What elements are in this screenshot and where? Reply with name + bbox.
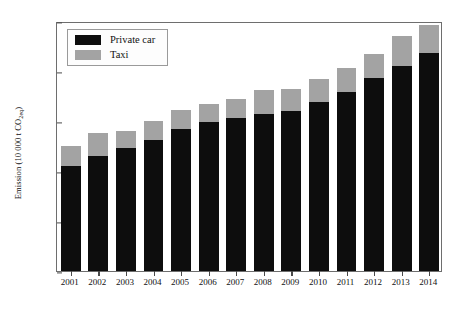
x-axis-tick-mark: [429, 271, 430, 276]
x-axis-tick-mark: [236, 271, 237, 276]
legend-item-taxi: Taxi: [75, 50, 155, 61]
bar-2007: [226, 99, 246, 271]
x-axis-tick-mark: [291, 271, 292, 276]
bar-segment-taxi: [88, 133, 108, 156]
bar-2011: [337, 68, 357, 271]
bar-2006: [199, 104, 219, 271]
bar-segment-taxi: [144, 121, 164, 140]
bar-segment-taxi: [254, 90, 274, 114]
bar-2012: [364, 54, 384, 271]
bar-segment-taxi: [364, 54, 384, 78]
x-axis-tick-mark: [347, 271, 348, 276]
y-axis-tick-mark: [57, 72, 62, 73]
x-axis-tick-mark: [402, 271, 403, 276]
bar-segment-private-car: [419, 53, 439, 271]
bar-2001: [61, 146, 81, 271]
y-axis-tick-mark: [57, 22, 62, 23]
bar-segment-taxi: [61, 146, 81, 166]
bar-segment-private-car: [309, 102, 329, 271]
x-axis-tick-mark: [154, 271, 155, 276]
y-axis-title-subscript: 2eq: [18, 110, 24, 119]
x-axis-tick-mark: [126, 271, 127, 276]
bar-2008: [254, 90, 274, 271]
x-axis-tick-mark: [374, 271, 375, 276]
bar-2010: [309, 79, 329, 271]
legend-item-private-car: Private car: [75, 35, 155, 46]
x-axis-tick-mark: [264, 271, 265, 276]
y-axis-title: Emission (10 000 t CO2eq): [13, 53, 23, 253]
x-axis-tick-mark: [98, 271, 99, 276]
bar-segment-private-car: [337, 92, 357, 271]
legend-label-taxi: Taxi: [110, 50, 129, 61]
x-axis-tick-mark: [181, 271, 182, 276]
bar-segment-private-car: [364, 78, 384, 271]
bar-2004: [144, 121, 164, 271]
bar-segment-private-car: [88, 156, 108, 271]
bar-2005: [171, 110, 191, 271]
bar-segment-private-car: [116, 148, 136, 271]
legend-swatch-private-car-icon: [75, 35, 101, 45]
x-axis-tick-mark: [71, 271, 72, 276]
bar-segment-private-car: [226, 118, 246, 271]
bar-segment-private-car: [281, 111, 301, 271]
bar-segment-private-car: [144, 140, 164, 271]
bar-segment-taxi: [392, 36, 412, 66]
bar-2009: [281, 89, 301, 271]
chart-legend: Private car Taxi: [67, 29, 168, 66]
bar-segment-taxi: [419, 25, 439, 53]
bar-2013: [392, 36, 412, 271]
bar-segment-taxi: [337, 68, 357, 92]
y-axis-tick-mark: [57, 122, 62, 123]
y-axis-tick-mark: [57, 272, 62, 273]
x-axis-tick-mark: [319, 271, 320, 276]
y-axis-title-prefix: Emission (10 000 t CO: [13, 119, 23, 200]
x-axis-tick-label-2014: 2014: [408, 277, 448, 287]
bar-segment-private-car: [392, 66, 412, 271]
legend-label-private-car: Private car: [110, 35, 155, 46]
bar-segment-private-car: [254, 114, 274, 271]
bar-segment-taxi: [171, 110, 191, 129]
bar-segment-private-car: [199, 122, 219, 271]
plot-area: Private car Taxi 0510152025: [56, 22, 442, 272]
emission-stacked-bar-chart: Emission (10 000 t CO2eq) Private car Ta…: [0, 0, 460, 310]
bar-2003: [116, 131, 136, 271]
bar-2002: [88, 133, 108, 271]
bar-segment-taxi: [309, 79, 329, 102]
bar-segment-taxi: [199, 104, 219, 122]
bar-segment-private-car: [171, 129, 191, 271]
legend-swatch-taxi-icon: [75, 50, 101, 60]
bar-segment-private-car: [61, 166, 81, 271]
bar-segment-taxi: [226, 99, 246, 118]
bar-segment-taxi: [116, 131, 136, 148]
x-axis-tick-mark: [209, 271, 210, 276]
bar-2014: [419, 25, 439, 271]
bar-segment-taxi: [281, 89, 301, 111]
